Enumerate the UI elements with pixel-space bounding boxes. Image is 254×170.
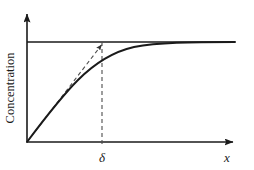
delta-label: δ xyxy=(99,150,106,165)
y-axis-label: Concentration xyxy=(3,52,17,124)
concentration-profile-figure: δ x Concentration xyxy=(0,0,254,170)
figure-background xyxy=(0,0,254,170)
plot-canvas: δ x Concentration xyxy=(0,0,254,170)
x-axis-label: x xyxy=(223,150,230,165)
